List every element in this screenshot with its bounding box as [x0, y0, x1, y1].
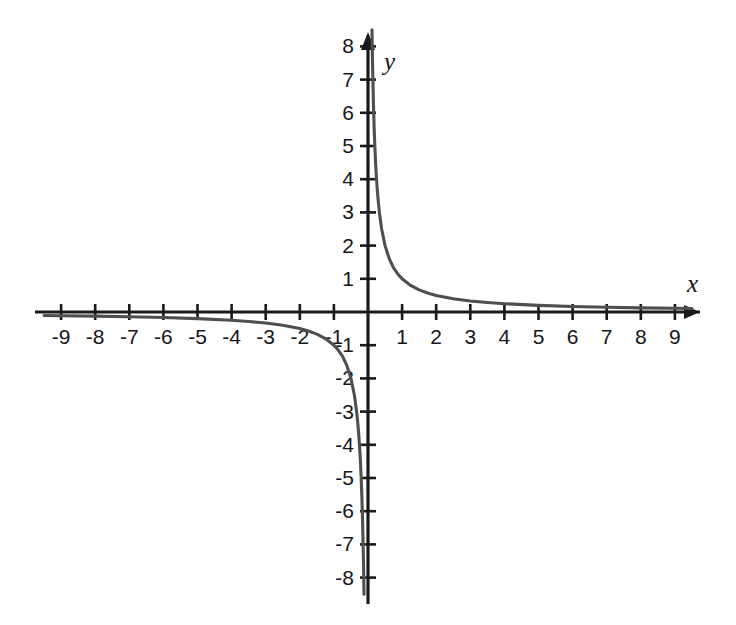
x-tick-label: 5 [533, 325, 545, 348]
y-tick-label: -8 [335, 566, 354, 589]
x-tick-label: 8 [635, 325, 647, 348]
y-tick-label: 6 [342, 101, 354, 124]
x-tick-label: -7 [120, 325, 139, 348]
x-tick-label: -8 [86, 325, 105, 348]
x-tick-label: 6 [567, 325, 579, 348]
y-tick-label: -1 [335, 333, 354, 356]
y-tick-label: -5 [335, 466, 354, 489]
y-tick-label: 8 [342, 34, 354, 57]
cartesian-plot: -9-8-7-6-5-4-3-2-1123456789 87654321-1-2… [0, 0, 736, 625]
graph-figure: -9-8-7-6-5-4-3-2-1123456789 87654321-1-2… [0, 0, 736, 625]
y-tick-label: 3 [342, 200, 354, 223]
y-tick-label: 7 [342, 68, 354, 91]
y-tick-label: -4 [335, 433, 354, 456]
x-tick-label: 3 [464, 325, 476, 348]
x-tick-label: -3 [256, 325, 275, 348]
x-axis-label: x [686, 270, 698, 297]
x-tick-label: 1 [396, 325, 408, 348]
x-tick-label: 7 [601, 325, 613, 348]
x-tick-label: -5 [188, 325, 207, 348]
x-tick-label: 9 [669, 325, 681, 348]
y-tick-label: -3 [335, 400, 354, 423]
x-tick-label: -9 [52, 325, 71, 348]
x-tick-label: 2 [430, 325, 442, 348]
x-tick-label: -6 [154, 325, 173, 348]
x-tick-label: -4 [222, 325, 241, 348]
y-tick-label: -6 [335, 499, 354, 522]
y-tick-label: 4 [342, 167, 354, 190]
y-tick-label: 5 [342, 134, 354, 157]
y-tick-label: 1 [342, 267, 354, 290]
y-tick-label: -7 [335, 532, 354, 555]
y-tick-label: 2 [342, 234, 354, 257]
y-axis-label: y [381, 48, 396, 75]
x-tick-label: 4 [499, 325, 511, 348]
